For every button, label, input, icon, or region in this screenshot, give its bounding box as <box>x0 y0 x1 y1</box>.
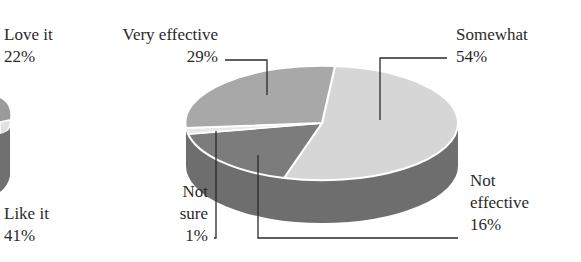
label-like-it: Like it41% <box>4 203 49 247</box>
label-very-effective: Very effective29% <box>86 24 218 68</box>
label-love-it: Love it22% <box>4 24 53 68</box>
label-somewhat: Somewhat54% <box>456 24 528 68</box>
label-not-effective: Noteffective16% <box>470 170 529 236</box>
right-pie <box>185 66 458 223</box>
left-pie-partial <box>0 98 10 192</box>
label-not-sure: Notsure1% <box>120 181 208 247</box>
